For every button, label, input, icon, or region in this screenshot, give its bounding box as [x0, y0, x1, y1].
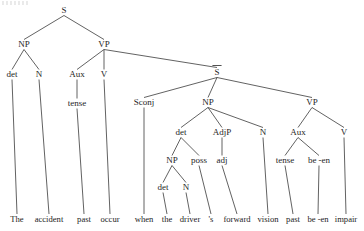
node-label: S	[61, 5, 66, 15]
node-label: S	[214, 67, 219, 77]
tree-edge	[208, 108, 222, 128]
terminal-label: occur	[100, 214, 119, 224]
node-label: NP	[18, 39, 30, 49]
tree-edge	[318, 166, 319, 215]
node-label: tense	[68, 98, 87, 108]
node-label: det	[158, 182, 169, 192]
tree-edge	[12, 80, 17, 215]
node-label: Aux	[290, 127, 306, 137]
tree-edge	[144, 78, 217, 98]
node-label: VP	[98, 39, 110, 49]
tree-edge	[77, 109, 84, 215]
tree-edge	[222, 166, 237, 215]
terminal-label: driver	[180, 214, 201, 224]
terminal-label: past	[77, 214, 91, 224]
node-label: tense	[276, 155, 295, 165]
node-label: N	[183, 182, 190, 192]
tree-edge	[208, 78, 217, 98]
node-label: det	[176, 127, 187, 137]
node-label: poss	[191, 155, 208, 165]
terminal-label: be -en	[307, 214, 329, 224]
node-label: V	[101, 69, 108, 79]
node-label: Aux	[69, 69, 85, 79]
terminal-label: impair	[335, 214, 358, 224]
syntax-tree-figure: SNPVPdetNAuxVStenseSconjNPVPdetAdjPNAuxV…	[0, 0, 364, 231]
node-label: NP	[202, 97, 214, 107]
node-label: N	[36, 69, 43, 79]
node-label: AdjP	[213, 127, 232, 137]
tree-edge	[39, 80, 49, 215]
tree-edge	[181, 138, 199, 156]
terminal-label: the	[162, 214, 173, 224]
node-label: N	[260, 127, 267, 137]
node-label: V	[341, 127, 348, 137]
syntax-tree-canvas: SNPVPdetNAuxVStenseSconjNPVPdetAdjPNAuxV…	[0, 0, 364, 231]
tree-edge-group	[12, 16, 346, 215]
tree-edge	[208, 108, 263, 128]
tree-edge	[12, 50, 24, 70]
node-label: Sconj	[134, 97, 155, 107]
tree-edge	[285, 166, 293, 215]
tree-edge	[64, 16, 104, 40]
tree-edge	[298, 108, 312, 128]
tree-edge	[163, 193, 167, 215]
tree-edge	[186, 193, 190, 215]
node-label: be -en	[308, 155, 331, 165]
terminal-label: when	[135, 214, 154, 224]
tree-edge	[217, 78, 312, 98]
tree-edge	[181, 108, 208, 128]
terminal-label: accident	[35, 214, 64, 224]
tree-edge	[344, 138, 346, 215]
tree-edge	[172, 166, 186, 183]
tree-edge	[172, 138, 181, 156]
tree-edge	[24, 50, 39, 70]
terminal-label: vision	[257, 214, 279, 224]
tree-edge	[312, 108, 344, 128]
tree-edge	[285, 138, 298, 156]
tree-edge	[199, 166, 211, 215]
tree-edge	[77, 50, 104, 70]
terminal-label: 's	[209, 214, 215, 224]
tree-node-group: SNPVPdetNAuxVStenseSconjNPVPdetAdjPNAuxV…	[7, 5, 358, 224]
node-label: adj	[217, 155, 228, 165]
tree-edge	[163, 166, 172, 183]
tree-edge	[298, 138, 319, 156]
tree-edge	[104, 80, 110, 215]
node-label: NP	[166, 155, 178, 165]
node-label: VP	[306, 97, 318, 107]
tree-edge	[104, 50, 217, 68]
tree-edge	[24, 16, 64, 40]
tree-edge	[263, 138, 268, 215]
terminal-label: past	[286, 214, 300, 224]
node-label: det	[7, 69, 18, 79]
terminal-label: forward	[223, 214, 251, 224]
terminal-label: The	[10, 214, 24, 224]
